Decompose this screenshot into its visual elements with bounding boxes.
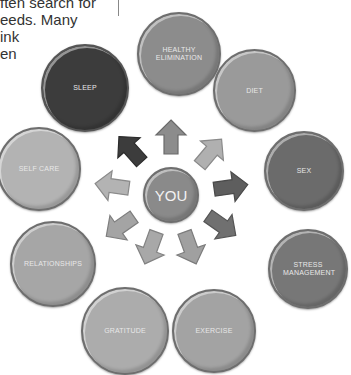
arrow-up-right-icon — [188, 130, 233, 175]
arrow-up-icon — [156, 120, 186, 154]
node-label: GRATITUDE — [98, 327, 152, 335]
node-label: RELATIONSHIPS — [18, 260, 88, 268]
node-self-care: SELF CARE — [0, 127, 81, 211]
node-stress-management: STRESS MANAGEMENT — [268, 229, 348, 309]
node-healthy-elimination: HEALTHY ELIMINATION — [137, 12, 221, 96]
node-label: STRESS MANAGEMENT — [277, 261, 339, 277]
node-label: DIET — [240, 87, 269, 95]
arrow-down-left-icon — [98, 205, 143, 249]
node-label: SELF CARE — [13, 165, 66, 173]
arrow-down-right-low-icon — [170, 227, 210, 269]
arrow-up-left-icon — [108, 127, 153, 172]
node-sex: SEX — [264, 131, 344, 211]
arrow-right-icon — [212, 170, 250, 204]
node-relationships: RELATIONSHIPS — [10, 221, 96, 307]
node-label: HEALTHY ELIMINATION — [148, 46, 210, 62]
center-you-node: YOU — [143, 167, 199, 223]
node-exercise: EXERCISE — [172, 289, 256, 373]
node-label: EXERCISE — [190, 327, 239, 335]
node-label: SEX — [291, 167, 318, 175]
arrow-down-left-low-icon — [131, 227, 171, 269]
arrow-left-icon — [93, 169, 131, 203]
center-label: YOU — [155, 188, 188, 203]
arrow-down-right-icon — [199, 204, 244, 248]
node-label: SLEEP — [67, 84, 103, 92]
node-diet: DIET — [213, 49, 296, 132]
node-sleep: SLEEP — [41, 44, 129, 132]
node-gratitude: GRATITUDE — [81, 287, 169, 375]
